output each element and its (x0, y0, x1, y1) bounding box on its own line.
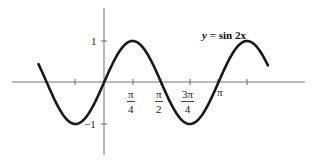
fraction-numerator: π (127, 89, 135, 102)
sine-graph (0, 0, 315, 160)
equation-label: y = sin 2x (202, 29, 246, 41)
y-tick-label-1: 1 (91, 36, 97, 47)
equation-lhs: y (202, 29, 207, 41)
fraction-denominator: 4 (185, 102, 191, 115)
fraction-denominator: 4 (128, 102, 134, 115)
fraction-numerator: 3π (181, 89, 194, 102)
equation-equals: = (210, 29, 216, 41)
x-tick-label-pi: π (217, 87, 223, 98)
equation-rhs: sin 2x (219, 29, 246, 41)
fraction-numerator: π (155, 89, 163, 102)
y-tick-label-neg1: −1 (84, 119, 96, 130)
x-tick-label-3pi-over-4: 3π 4 (181, 89, 194, 115)
x-tick-label-pi-over-4: π 4 (127, 89, 135, 115)
x-tick-label-pi-over-2: π 2 (155, 89, 163, 115)
fraction-denominator: 2 (156, 102, 162, 115)
